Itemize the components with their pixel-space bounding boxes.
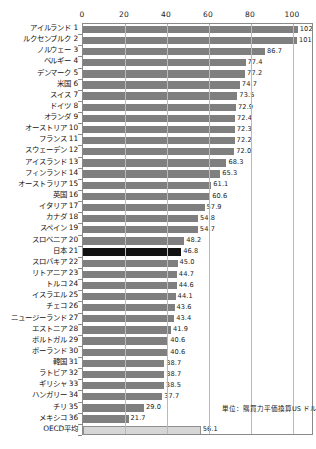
- bar-35: [83, 404, 144, 411]
- chart-row: 72.0: [83, 146, 312, 157]
- axis-tickmark: [78, 268, 82, 269]
- bar-14: [83, 170, 220, 177]
- unit-annotation: 単位：購買力平価換算US ドル: [222, 403, 316, 413]
- category-label-6: 米国 6: [57, 79, 78, 90]
- chart-row: 41.9: [83, 325, 312, 336]
- bar-value-label: 43.6: [177, 303, 192, 312]
- bar-28: [83, 326, 171, 333]
- axis-tickmark: [78, 90, 82, 91]
- category-label-29: ポルトガル 29: [32, 335, 78, 346]
- axis-tickmark: [78, 301, 82, 302]
- axis-tickmark: [78, 190, 82, 191]
- chart-row: 44.1: [83, 291, 312, 302]
- axis-tickmark: [78, 168, 82, 169]
- bar-31: [83, 360, 164, 367]
- chart-row: 43.6: [83, 302, 312, 313]
- axis-tickmark: [78, 123, 82, 124]
- category-label-18: カナダ 18: [46, 212, 78, 223]
- category-label-16: 英国 16: [53, 190, 78, 201]
- axis-tickmark: [78, 235, 82, 236]
- category-label-34: ハンガリー 34: [32, 390, 78, 401]
- bar-value-label: 38.7: [166, 370, 181, 379]
- category-label-3: ノルウェー 3: [37, 45, 78, 56]
- category-label-28: エストニア 28: [32, 324, 78, 335]
- axis-tickmark: [78, 257, 82, 258]
- category-label-26: チェコ 26: [46, 301, 78, 312]
- bar-value-label: 77.2: [247, 69, 262, 78]
- bar-value-label: 77.4: [248, 58, 263, 67]
- x-tick-label-80: 80: [245, 10, 255, 19]
- chart-row: 86.7: [83, 46, 312, 57]
- chart-row: 21.7: [83, 414, 312, 425]
- bar-5: [83, 70, 245, 77]
- category-label-12: スウェーデン 12: [25, 145, 78, 156]
- bar-value-label: 72.4: [237, 114, 252, 123]
- axis-tickmark: [78, 324, 82, 325]
- axis-tickmark: [78, 390, 82, 391]
- category-label-27: ニュージーランド 27: [11, 313, 78, 324]
- axis-tickmark: [78, 402, 82, 403]
- chart-row: 65.3: [83, 169, 312, 180]
- category-label-31: 韓国 31: [53, 357, 78, 368]
- bar-value-label: 46.8: [183, 247, 198, 256]
- bar-3: [83, 48, 265, 55]
- category-label-24: トルコ 24: [46, 279, 78, 290]
- axis-tickmark: [78, 179, 82, 180]
- chart-row: 57.9: [83, 202, 312, 213]
- chart-row: 56.1: [83, 425, 312, 435]
- chart-row: 54.8: [83, 213, 312, 224]
- bar-6: [83, 81, 240, 88]
- x-tick-label-0: 0: [80, 10, 85, 19]
- chart-row: 72.3: [83, 124, 312, 135]
- bar-4: [83, 59, 246, 66]
- bars-layer: 102.3101.986.777.477.274.773.572.972.472…: [83, 24, 312, 434]
- axis-tickmark: [78, 279, 82, 280]
- category-label-21: 日本 21: [53, 246, 78, 257]
- axis-tickmark: [78, 212, 82, 213]
- chart-row: 37.7: [83, 391, 312, 402]
- axis-tickmark: [78, 368, 82, 369]
- category-label-36: メキシコ 36: [39, 413, 78, 424]
- bar-value-label: 40.6: [170, 348, 185, 357]
- gridline-60: [209, 24, 210, 434]
- bar-32: [83, 371, 164, 378]
- bar-9: [83, 115, 235, 122]
- bar-value-label: 72.2: [237, 136, 252, 145]
- bar-value-label: 29.0: [146, 403, 161, 412]
- bar-18: [83, 215, 198, 222]
- chart-row: 74.7: [83, 80, 312, 91]
- chart-row: 72.4: [83, 113, 312, 124]
- bar-value-label: 86.7: [267, 47, 282, 56]
- chart-row: 44.7: [83, 269, 312, 280]
- bar-2: [83, 37, 297, 44]
- bar-22: [83, 260, 178, 267]
- bar-value-label: 101.9: [299, 36, 313, 45]
- chart-row: 72.9: [83, 102, 312, 113]
- bar-19: [83, 226, 198, 233]
- bar-value-label: 65.3: [222, 169, 237, 178]
- category-label-15: オーストラリア 15: [18, 179, 78, 190]
- bar-13: [83, 159, 226, 166]
- chart-row: 60.6: [83, 191, 312, 202]
- category-label-10: オーストリア 10: [25, 123, 78, 134]
- gridline-100: [293, 24, 294, 434]
- gridline-20: [125, 24, 126, 434]
- bar-chart: 020406080100 102.3101.986.777.477.274.77…: [0, 0, 316, 449]
- category-label-33: ギリシャ 33: [39, 379, 78, 390]
- chart-row: 77.2: [83, 69, 312, 80]
- axis-tickmark: [78, 223, 82, 224]
- bar-27: [83, 315, 174, 322]
- axis-tickmark: [78, 145, 82, 146]
- bar-25: [83, 293, 176, 300]
- category-label-37: OECD平均: [43, 424, 78, 435]
- bar-value-label: 44.7: [179, 270, 194, 279]
- bar-value-label: 54.8: [200, 214, 215, 223]
- chart-row: 40.6: [83, 347, 312, 358]
- category-label-1: アイルランド 1: [30, 23, 78, 34]
- chart-row: 61.1: [83, 180, 312, 191]
- x-tick-label-100: 100: [285, 10, 300, 19]
- axis-tickmark: [78, 45, 82, 46]
- axis-tickmark: [78, 112, 82, 113]
- bar-26: [83, 304, 175, 311]
- bar-value-label: 72.3: [237, 125, 252, 134]
